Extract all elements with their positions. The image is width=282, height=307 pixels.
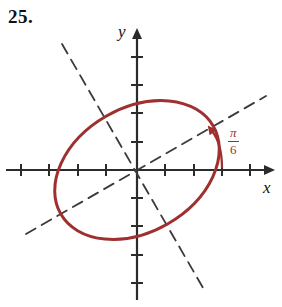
y-axis-label: y bbox=[118, 22, 126, 42]
angle-label: π 6 bbox=[228, 126, 239, 156]
x-axis-label: x bbox=[263, 178, 271, 198]
angle-denominator: 6 bbox=[228, 143, 239, 157]
angle-numerator: π bbox=[228, 126, 239, 140]
ellipse-figure bbox=[0, 0, 282, 307]
